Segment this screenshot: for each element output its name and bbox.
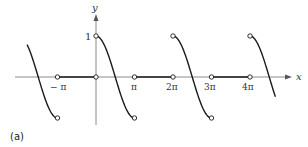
curve-piece — [250, 36, 275, 97]
open-circle-icon — [209, 116, 213, 120]
function-curves — [27, 36, 275, 118]
open-circle-icon — [248, 34, 252, 38]
open-circle-icon — [209, 75, 213, 79]
open-circle-icon — [55, 116, 59, 120]
x-tick-label-pi: π — [131, 82, 137, 92]
open-circle-icon — [132, 116, 136, 120]
y-axis-arrow-icon — [94, 14, 99, 21]
open-circle-icon — [132, 75, 136, 79]
open-circle-icon — [94, 34, 98, 38]
x-tick-label-2pi: 2π — [166, 82, 178, 92]
open-circle-icon — [55, 75, 59, 79]
x-axis-label: x — [296, 71, 302, 82]
x-axis-arrow-icon — [285, 75, 292, 80]
x-tick-label-neg-pi: − π — [50, 82, 66, 92]
open-circle-icon — [94, 75, 98, 79]
y-axis-label: y — [91, 2, 98, 13]
function-graph: x y 1 − π π 2π 3π 4π — [0, 0, 308, 147]
open-circle-icon — [171, 75, 175, 79]
open-circle-icon — [248, 75, 252, 79]
open-circle-icon — [171, 34, 175, 38]
x-tick-label-4pi: 4π — [242, 82, 254, 92]
figure-caption: (a) — [10, 131, 24, 142]
x-tick-label-3pi: 3π — [204, 82, 216, 92]
y-tick-label-1: 1 — [85, 31, 91, 42]
